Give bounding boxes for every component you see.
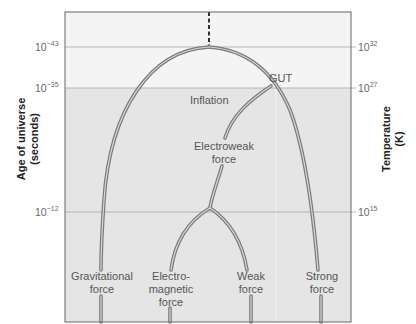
electroweak-label: Electroweak force [191,140,257,166]
gut-label: GUT [269,72,292,85]
gravitational-force-label: Gravitational force [70,270,134,296]
faint-stripe [275,88,277,322]
left-tick-electroweak: 10−12 [35,205,59,218]
left-axis-title: Age of universe (seconds) [15,84,41,194]
right-tick-planck: 1032 [358,40,377,53]
right-tick-electroweak: 1015 [358,205,377,218]
weak-force-label: Weak force [233,270,269,296]
inflation-label: Inflation [190,94,229,107]
electromagnetic-force-label: Electro- magnetic force [146,270,196,309]
right-axis-title: Temperature (K) [380,84,406,194]
right-tick-gut: 1027 [358,81,377,94]
left-tick-planck: 10−43 [35,40,59,53]
pre-inflation-region [65,12,351,88]
strong-force-label: Strong force [302,270,342,296]
